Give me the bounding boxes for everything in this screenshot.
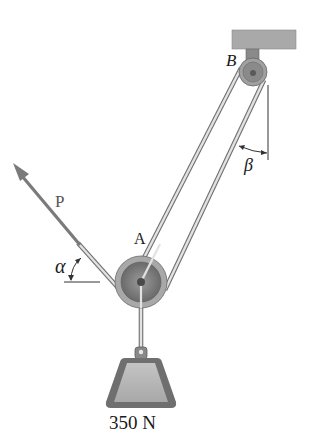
label-pulley-b: B (226, 52, 236, 69)
beta-angle-arc (239, 145, 267, 155)
alpha-angle-arc (68, 258, 81, 281)
load-weight (106, 358, 176, 408)
label-pulley-a: A (134, 231, 146, 247)
pulley-b (239, 58, 267, 86)
force-arrow-p (13, 163, 80, 245)
rope-p (78, 243, 120, 290)
label-alpha: α (55, 256, 66, 276)
label-beta: β (244, 156, 253, 174)
label-load: 350 N (109, 413, 156, 432)
pulley-a (115, 244, 167, 308)
load-hook (135, 347, 147, 359)
label-force-p: P (55, 193, 64, 210)
pulley-diagram (0, 0, 313, 444)
ceiling-support (232, 30, 296, 49)
